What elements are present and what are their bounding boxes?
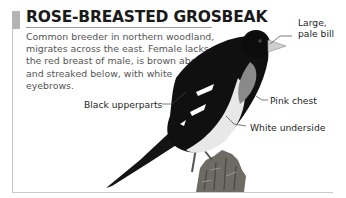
stump-icon (196, 150, 246, 192)
label-chest: Pink chest (270, 95, 317, 106)
label-bill-line2: pale bill (298, 28, 334, 39)
label-upperparts: Black upperparts (84, 99, 162, 110)
label-bill-line1: Large, (298, 17, 334, 28)
label-underside: White underside (250, 122, 325, 133)
label-bill: Large, pale bill (298, 17, 334, 39)
